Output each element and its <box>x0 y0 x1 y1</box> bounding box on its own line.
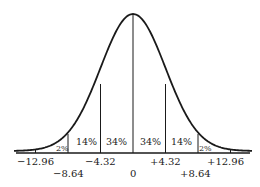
pct-left-center: 34% <box>106 136 127 147</box>
pct-right-center: 34% <box>140 136 161 147</box>
pct-right-mid: 14% <box>171 136 192 147</box>
tick-label-plus-8-64: +8.64 <box>180 168 211 179</box>
pct-right-tail: 2% <box>199 144 212 153</box>
tick-label-plus-4-32: +4.32 <box>150 156 181 167</box>
tick-label-minus-4-32: −4.32 <box>85 156 116 167</box>
tick-label-minus-12-96: −12.96 <box>17 156 54 167</box>
pct-left-tail: 2% <box>56 144 69 153</box>
tick-label-zero: 0 <box>130 168 136 179</box>
tick-label-plus-12-96: +12.96 <box>207 156 244 167</box>
pct-left-mid: 14% <box>76 136 97 147</box>
tick-label-minus-8-64: −8.64 <box>53 168 84 179</box>
normal-distribution-diagram: 2% 14% 34% 34% 14% 2% −12.96 −4.32 +4.32… <box>0 0 260 187</box>
